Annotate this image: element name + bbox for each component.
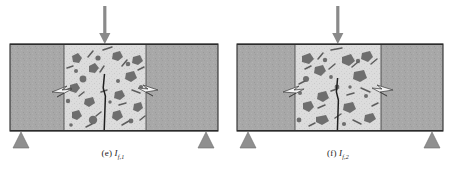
beam-body (237, 44, 443, 131)
panel-f-caption: (f) If,2 (225, 148, 451, 160)
right-triangle-support (424, 132, 440, 148)
panel-f-caption-index: (f) (327, 148, 337, 158)
beam-body (10, 44, 218, 131)
panel-e-caption: (e) If,1 (0, 148, 226, 160)
right-triangle-support (198, 132, 214, 148)
load-arrow-icon (99, 6, 110, 44)
panel-e-caption-subscript: f,1 (118, 154, 125, 160)
left-triangle-support (13, 132, 29, 148)
figure-panel-f: (f) If,2 (225, 0, 451, 174)
panel-e-caption-index: (e) (101, 148, 112, 158)
panel-f-caption-subscript: f,2 (342, 154, 349, 160)
load-arrow-icon (332, 6, 343, 44)
figure-panel-e: (e) If,1 (0, 0, 226, 174)
left-triangle-support (240, 132, 256, 148)
